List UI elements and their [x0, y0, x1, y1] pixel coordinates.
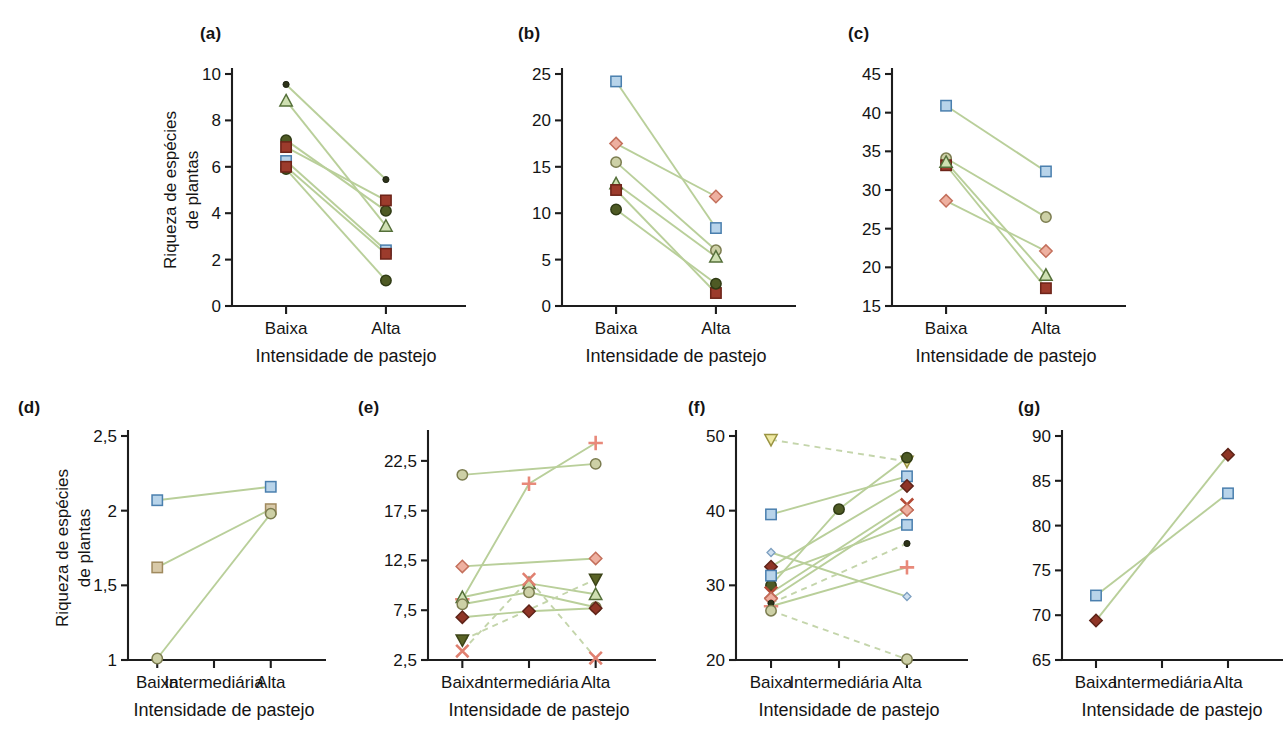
series-line-d-s2: [157, 509, 271, 567]
plot-svg-c: 15202530354045BaixaAltaIntensidade de pa…: [830, 16, 1170, 376]
data-point-a-s1-baixa: [283, 81, 289, 87]
plot-svg-b: 0510152025BaixaAltaIntensidade de pastej…: [500, 16, 830, 376]
y-tick-label-g-1: 70: [1032, 606, 1051, 625]
y-tick-label-a-2: 4: [212, 204, 221, 223]
data-point-b-s2-alta: [710, 190, 722, 202]
x-category-label-g-2: Alta: [1213, 673, 1243, 692]
x-category-label-c-1: Alta: [1031, 319, 1061, 338]
data-point-f-s9-alta: [900, 560, 914, 574]
chart-panel-e: (e)2,57,512,517,522,5BaixaIntermediáriaA…: [340, 388, 670, 745]
data-point-e-s2-intermediária: [522, 477, 536, 491]
x-category-label-g-0: Baixa: [1075, 673, 1118, 692]
plot-svg-a: 0246810BaixaAltaIntensidade de pastejoRi…: [170, 16, 500, 376]
y-tick-label-g-2: 75: [1032, 561, 1051, 580]
data-point-f-s10-alta: [904, 540, 910, 546]
y-tick-label-b-3: 15: [532, 158, 551, 177]
y-tick-label-e-1: 7,5: [393, 601, 417, 620]
y-tick-label-f-3: 50: [706, 427, 725, 446]
x-category-label-f-1: Intermediária: [789, 673, 889, 692]
data-point-a-s7-baixa: [281, 162, 291, 172]
x-category-label-d-1: Intermediária: [164, 673, 264, 692]
x-category-label-g-1: Intermediária: [1112, 673, 1212, 692]
data-point-d-s3-alta: [266, 508, 276, 518]
series-line-e-s1: [462, 464, 595, 475]
data-point-e-s5-baixa: [457, 599, 467, 609]
data-point-e-s1-alta: [590, 459, 600, 469]
y-tick-label-b-5: 25: [532, 65, 551, 84]
data-point-e-s5-intermediária: [524, 587, 534, 597]
series-line-b-s2: [616, 144, 716, 197]
series-markers-f-s11: [766, 606, 912, 665]
chart-panel-d: (d)11,522,5BaixaIntermediáriaAltaIntensi…: [0, 388, 340, 745]
chart-panel-c: (c)15202530354045BaixaAltaIntensidade de…: [830, 16, 1170, 376]
series-line-a-s1: [286, 84, 386, 179]
data-point-b-s3-baixa: [611, 157, 621, 167]
data-point-c-s3-alta: [1041, 283, 1051, 293]
data-point-a-s7-alta: [381, 249, 391, 259]
x-axis-title-d: Intensidade de pastejo: [133, 700, 314, 720]
y-tick-label-e-3: 17,5: [384, 502, 417, 521]
series-line-d-s3: [157, 514, 271, 659]
data-point-e-s6-baixa: [456, 611, 468, 623]
x-category-label-b-1: Alta: [701, 319, 731, 338]
y-tick-label-c-3: 30: [862, 181, 881, 200]
x-category-label-e-2: Alta: [581, 673, 611, 692]
data-point-g-s1-baixa: [1091, 590, 1101, 600]
y-tick-label-b-2: 10: [532, 204, 551, 223]
panel-label-d: (d): [18, 398, 40, 418]
data-point-d-s1-baixa: [152, 495, 162, 505]
data-point-c-s5-alta: [1040, 245, 1052, 257]
panel-label-a: (a): [200, 24, 221, 44]
data-point-g-s1-alta: [1223, 488, 1233, 498]
x-category-label-a-0: Baixa: [265, 319, 308, 338]
series-line-e-s3: [462, 558, 595, 566]
y-axis-title-line2-d: de plantas: [75, 509, 94, 587]
y-tick-label-a-3: 6: [212, 158, 221, 177]
data-point-d-s1-alta: [266, 482, 276, 492]
y-tick-label-a-0: 0: [212, 297, 221, 316]
y-tick-label-g-0: 65: [1032, 651, 1051, 670]
series-line-f-s6: [771, 525, 907, 576]
y-tick-label-d-3: 2,5: [93, 427, 117, 446]
y-tick-label-g-3: 80: [1032, 517, 1051, 536]
data-point-f-s11-baixa: [766, 606, 776, 616]
data-point-b-s5-baixa: [611, 185, 621, 195]
data-point-f-s2-baixa: [766, 509, 776, 519]
data-point-a-s6-alta: [381, 275, 391, 285]
series-markers-e-s6: [456, 602, 602, 623]
data-point-f-s3-intermediária: [834, 504, 844, 514]
x-category-label-f-0: Baixa: [750, 673, 793, 692]
y-tick-label-a-5: 10: [202, 65, 221, 84]
axis-frame-a: [232, 68, 466, 306]
data-point-a-s4-baixa: [281, 142, 291, 152]
x-axis-title-e: Intensidade de pastejo: [448, 700, 629, 720]
data-point-f-s11-alta: [902, 654, 912, 664]
data-point-b-s1-baixa: [611, 76, 621, 86]
y-tick-label-f-2: 40: [706, 502, 725, 521]
data-point-a-s3-alta: [381, 206, 391, 216]
x-axis-title-a: Intensidade de pastejo: [255, 346, 436, 366]
data-point-b-s6-alta: [711, 279, 721, 289]
data-point-e-s1-baixa: [457, 470, 467, 480]
y-tick-label-c-6: 45: [862, 65, 881, 84]
plot-svg-g: 657075808590BaixaIntermediáriaAltaIntens…: [1000, 388, 1283, 745]
series-line-f-s7: [771, 505, 907, 593]
y-tick-label-g-5: 90: [1032, 427, 1051, 446]
data-point-c-s1-baixa: [941, 101, 951, 111]
axis-frame-e: [428, 430, 656, 660]
series-line-g-s2: [1096, 455, 1228, 621]
panel-label-g: (g): [1018, 398, 1040, 418]
data-point-c-s2-alta: [1041, 212, 1051, 222]
y-tick-label-f-1: 30: [706, 576, 725, 595]
data-point-e-s3-baixa: [456, 560, 468, 572]
y-axis-title-line1-a: Riqueza de espécies: [161, 111, 180, 269]
data-point-e-s3-alta: [589, 552, 601, 564]
y-tick-label-g-4: 85: [1032, 472, 1051, 491]
chart-panel-g: (g)657075808590BaixaIntermediáriaAltaInt…: [1000, 388, 1283, 745]
data-point-f-s4-alta: [903, 593, 911, 601]
panel-label-b: (b): [518, 24, 540, 44]
y-tick-label-d-2: 2: [108, 502, 117, 521]
axis-frame-d: [128, 430, 326, 660]
data-point-d-s2-baixa: [152, 562, 162, 572]
data-point-f-s4-baixa: [767, 548, 775, 556]
